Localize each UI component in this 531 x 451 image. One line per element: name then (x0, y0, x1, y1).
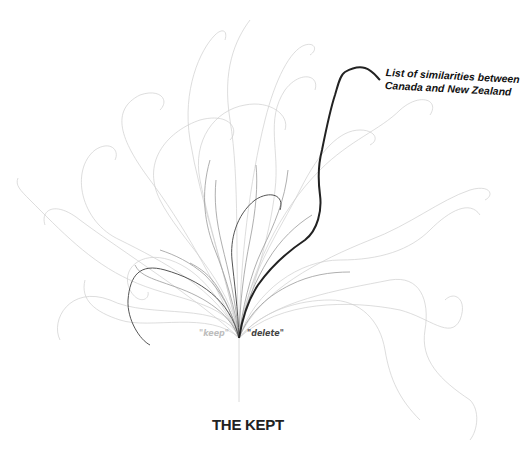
delete-label: "delete" (247, 329, 284, 338)
highlighted-path (239, 67, 380, 338)
keep-label: "keep" (199, 329, 229, 338)
diagram-title: THE KEPT (212, 416, 284, 433)
branching-tree-diagram (0, 0, 531, 451)
